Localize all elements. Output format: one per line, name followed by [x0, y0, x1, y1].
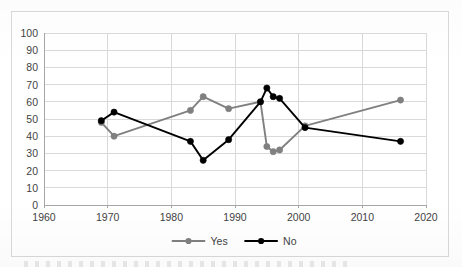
data-point	[200, 157, 206, 163]
y-axis-tick-label: 80	[26, 61, 38, 73]
y-axis-tick-label: 0	[32, 199, 38, 211]
legend-marker-yes[interactable]	[185, 238, 191, 244]
x-axis-tick-label: 1990	[223, 211, 247, 223]
data-point	[200, 94, 206, 100]
y-axis-tick-label: 50	[26, 113, 38, 125]
series-no	[98, 85, 403, 163]
chart-legend: YesNo	[173, 235, 297, 247]
x-axis-tick-label: 2020	[414, 211, 438, 223]
x-axis-tick-label: 2010	[351, 211, 375, 223]
x-axis-tick-label: 1980	[160, 211, 184, 223]
legend-label-yes[interactable]: Yes	[211, 235, 228, 247]
data-point	[226, 106, 232, 112]
data-point	[270, 94, 276, 100]
data-point	[257, 99, 263, 105]
data-point	[264, 85, 270, 91]
y-axis-tick-label: 90	[26, 44, 38, 56]
data-point	[276, 95, 282, 101]
data-point	[187, 107, 193, 113]
x-axis-tick-label: 1970	[96, 211, 120, 223]
data-point	[111, 109, 117, 115]
data-point	[397, 97, 403, 103]
data-point	[98, 118, 104, 124]
legend-label-no[interactable]: No	[283, 235, 297, 247]
x-axis-tick-label: 1960	[32, 211, 56, 223]
y-axis-tick-label: 100	[20, 27, 38, 39]
series-line	[101, 88, 400, 160]
data-point	[111, 133, 117, 139]
data-point	[302, 125, 308, 131]
y-axis-tick-label: 30	[26, 147, 38, 159]
data-point	[276, 147, 282, 153]
data-point	[187, 138, 193, 144]
y-axis-tick-label: 60	[26, 96, 38, 108]
y-axis-tick-label: 40	[26, 130, 38, 142]
chart-container: 0102030405060708090100196019701980199020…	[11, 11, 449, 257]
data-point	[264, 143, 270, 149]
y-axis-tick-label: 70	[26, 79, 38, 91]
cropped-caption-text	[24, 261, 354, 267]
data-point	[270, 149, 276, 155]
data-point	[397, 138, 403, 144]
y-axis-tick-label: 10	[26, 182, 38, 194]
y-axis-tick-label: 20	[26, 165, 38, 177]
line-chart: 0102030405060708090100196019701980199020…	[12, 12, 448, 256]
data-point	[226, 137, 232, 143]
x-axis-tick-label: 2000	[287, 211, 311, 223]
legend-marker-no[interactable]	[258, 238, 264, 244]
